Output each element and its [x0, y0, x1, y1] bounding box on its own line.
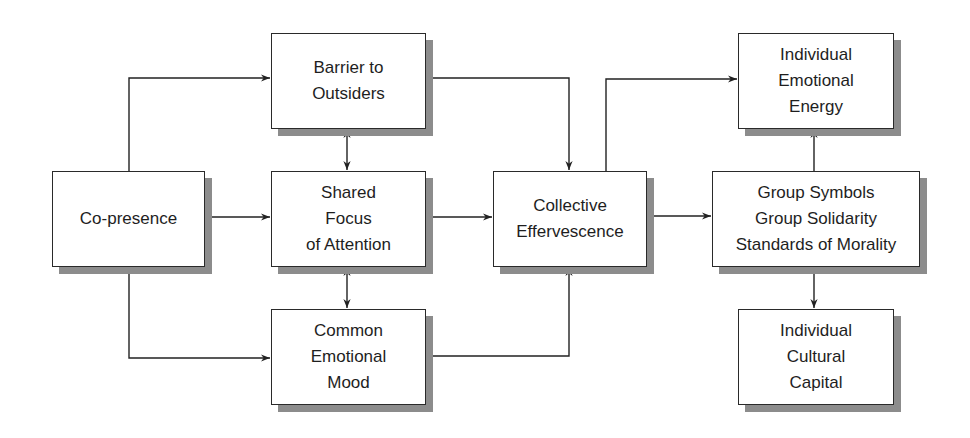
node-individual-cultural-capital: Individual Cultural Capital	[738, 309, 894, 405]
node-label: Individual Emotional Energy	[778, 42, 854, 120]
node-label: Individual Cultural Capital	[780, 318, 852, 396]
edge-copresence-common-mood	[129, 267, 270, 358]
node-barrier-to-outsiders: Barrier to Outsiders	[271, 33, 426, 129]
edge-collective-emotional-energy	[606, 79, 737, 171]
node-common-emotional-mood: Common Emotional Mood	[271, 309, 426, 405]
node-label: Barrier to Outsiders	[312, 55, 385, 107]
edge-copresence-barrier	[129, 78, 270, 171]
node-label: Shared Focus of Attention	[306, 180, 391, 258]
node-shared-focus: Shared Focus of Attention	[271, 171, 426, 267]
node-label: Group Symbols Group Solidarity Standards…	[736, 180, 897, 258]
edge-common-mood-collective	[425, 267, 569, 356]
node-label: Common Emotional Mood	[311, 318, 387, 396]
node-label: Co-presence	[80, 206, 177, 232]
node-label: Collective Effervescence	[516, 193, 623, 245]
node-collective-effervescence: Collective Effervescence	[493, 171, 647, 267]
edge-barrier-collective	[425, 78, 569, 170]
node-group-symbols: Group Symbols Group Solidarity Standards…	[712, 171, 920, 267]
node-copresence: Co-presence	[52, 171, 205, 267]
interaction-ritual-diagram: Co-presence Barrier to Outsiders Shared …	[0, 0, 970, 438]
node-individual-emotional-energy: Individual Emotional Energy	[738, 33, 894, 129]
